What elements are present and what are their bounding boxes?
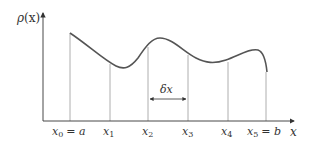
density-curve xyxy=(70,33,267,72)
partition-lines xyxy=(70,33,266,121)
y-axis-label: ρ(x) xyxy=(16,11,40,25)
tick-labels: x0= a x1 x2 x3 x4 x5= b xyxy=(52,125,281,139)
tick-label-x3: x3 xyxy=(182,125,193,139)
tick-label-x1: x1 xyxy=(103,125,114,139)
tick-label-x0: x0= a xyxy=(52,125,86,139)
tick-label-x2: x2 xyxy=(142,125,153,139)
x-axis-label: x xyxy=(290,125,297,139)
riemann-density-diagram: ρ(x) x δx x0= a x1 x2 x3 x4 x5= b xyxy=(0,0,311,142)
tick-label-x4: x4 xyxy=(221,125,232,139)
tick-label-x5: x5= b xyxy=(247,125,281,139)
interval-label: δx xyxy=(160,83,174,96)
